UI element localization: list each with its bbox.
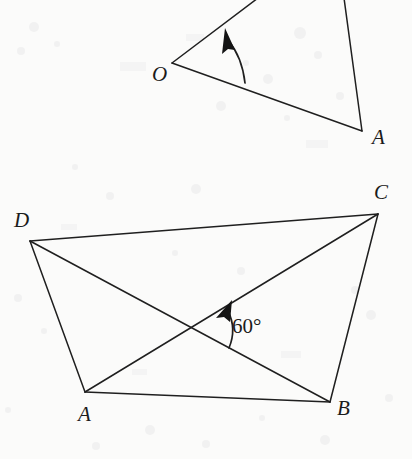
ray-O-A: [172, 63, 362, 131]
vertex-label-A-top: A: [372, 127, 385, 148]
rotation-arc-O: [222, 28, 245, 83]
rotation-arc-O-arrowhead: [222, 28, 235, 54]
side-AD: [30, 241, 85, 392]
vertex-label-B: B: [337, 398, 350, 419]
diagonal-DB: [30, 241, 330, 402]
vertex-label-A-bottom: A: [78, 404, 91, 425]
side-BA: [85, 392, 330, 402]
vertex-label-D: D: [14, 210, 29, 231]
ray-O-up: [172, 0, 258, 63]
vertex-label-O: O: [152, 64, 167, 85]
angle-label-60-degrees: 60°: [232, 316, 261, 337]
edge-top-A: [344, 0, 362, 131]
quadrilateral-diagonals: [30, 214, 378, 402]
side-CB: [330, 214, 378, 402]
geometry-figure-page: O A D C A B 60°: [0, 0, 412, 459]
top-figure-lines: [172, 0, 362, 131]
quadrilateral-sides: [30, 214, 378, 402]
vertex-label-C: C: [374, 182, 388, 203]
side-DC: [30, 214, 378, 241]
figure-canvas: [0, 0, 412, 459]
